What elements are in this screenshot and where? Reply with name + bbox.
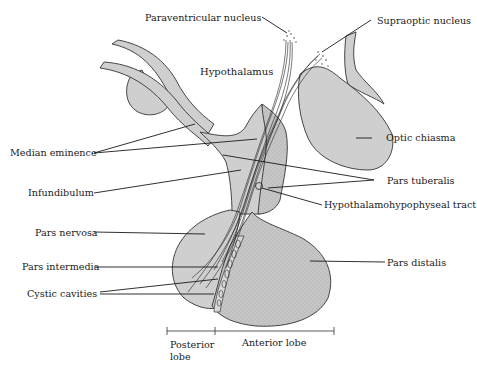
label-anterior-lobe: Anterior lobe [241,337,307,348]
label-pars-intermedia: Pars intermedia [22,261,100,272]
label-optic-chiasma: Optic chiasma [386,132,456,143]
pituitary-diagram: Paraventricular nucleus Supraoptic nucle… [0,0,477,366]
label-hypothalamohypophyseal-tract: Hypothalamohypophyseal tract [324,199,476,210]
label-pars-tuberalis: Pars tuberalis [387,175,455,186]
label-posterior-lobe-line2: lobe [170,351,191,362]
label-paraventricular-nucleus: Paraventricular nucleus [145,12,261,23]
label-median-eminence: Median eminence [10,147,97,158]
label-supraoptic-nucleus: Supraoptic nucleus [377,15,471,26]
infundibulum-shape [200,104,269,214]
label-pars-distalis: Pars distalis [387,257,446,268]
optic-chiasma-shape [298,67,392,170]
lobe-scale-bar [167,327,334,335]
label-hypothalamus: Hypothalamus [200,66,273,77]
label-cystic-cavities: Cystic cavities [27,288,97,299]
supraoptic-nucleus-tuft [315,51,328,67]
label-pars-nervosa: Pars nervosa [35,227,98,238]
label-posterior-lobe-line1: Posterior [170,339,215,350]
label-infundibulum: Infundibulum [28,187,94,198]
